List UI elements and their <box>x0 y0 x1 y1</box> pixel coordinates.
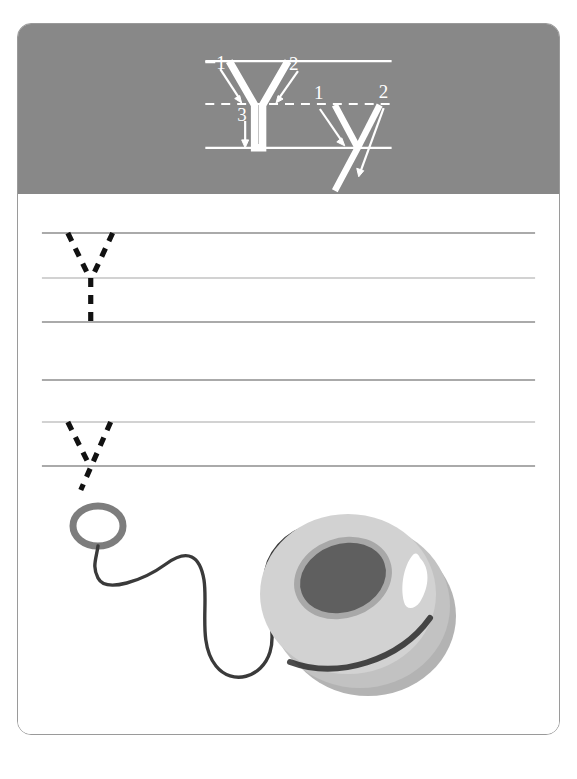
arrow-3-head <box>242 140 249 148</box>
practice-row-2 <box>42 380 535 466</box>
trace-uppercase-y-stroke-2[interactable] <box>92 233 113 278</box>
practice-area <box>18 194 559 735</box>
stroke-order-diagram: 1 2 3 1 2 <box>18 24 559 194</box>
yoyo-drawing <box>48 494 528 709</box>
yoyo-finger-loop-icon <box>73 506 123 546</box>
uppercase-stroke-3-number: 3 <box>237 104 246 125</box>
practice-row-1 <box>42 233 535 322</box>
illustration-yoyo <box>48 494 528 709</box>
uppercase-stroke-1-number: 1 <box>216 52 225 73</box>
trace-lowercase-y-stroke-1[interactable] <box>68 422 90 466</box>
lowercase-stroke-1-number: 1 <box>314 82 323 103</box>
lowercase-arrow-2-head <box>357 168 364 176</box>
lowercase-stroke-numbers: 1 2 <box>314 81 388 103</box>
trace-letter-lowercase-y[interactable] <box>68 422 111 490</box>
uppercase-stroke-2-number: 2 <box>289 53 298 74</box>
arrow-1-head <box>235 96 242 103</box>
worksheet-card: 1 2 3 1 2 <box>17 23 560 735</box>
trace-uppercase-y-stroke-1[interactable] <box>68 233 90 278</box>
lowercase-arrow-1-head <box>337 138 345 146</box>
stroke-order-header: 1 2 3 1 2 <box>18 24 559 194</box>
lowercase-stroke-2-number: 2 <box>379 81 388 102</box>
arrow-2-head <box>276 96 283 103</box>
